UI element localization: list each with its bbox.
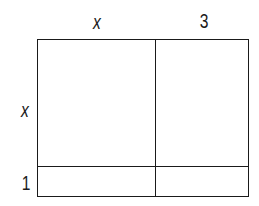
region-1-by-x: [39, 168, 154, 195]
region-1-by-3: [157, 168, 247, 195]
row-divider: [37, 166, 249, 168]
column-divider: [155, 39, 157, 197]
area-model-diagram: x 3 x 1: [0, 0, 259, 206]
region-x-by-x: [39, 41, 154, 165]
side-label-x: x: [21, 100, 29, 120]
side-label-1: 1: [22, 173, 31, 193]
top-label-x: x: [93, 12, 101, 32]
region-x-by-3: [157, 41, 247, 165]
top-label-3: 3: [200, 11, 209, 31]
